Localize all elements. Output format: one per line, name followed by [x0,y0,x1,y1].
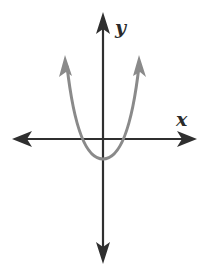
y-axis-label: y [114,16,128,38]
graph-canvas: y x [0,0,205,267]
parabola-left-arrow-icon [59,55,72,77]
x-axis-label: x [175,108,188,130]
x-axis [12,131,197,147]
